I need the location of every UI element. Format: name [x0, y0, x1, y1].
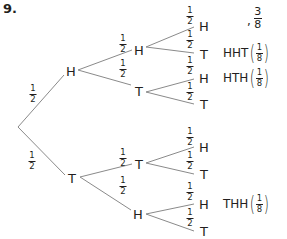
prob-th-h: 12: [187, 182, 194, 202]
leaf-thh: H: [199, 198, 209, 211]
prob-tt-h: 12: [187, 127, 194, 147]
outcome-prob: 18: [256, 68, 263, 88]
leaf-hht: T: [200, 48, 208, 61]
node-ht: T: [135, 85, 143, 98]
right-paren: ): [264, 42, 269, 64]
outcome-prob: 18: [256, 194, 263, 214]
prob-t-t: 12: [120, 148, 127, 168]
prob-tt-t: 12: [187, 151, 194, 171]
leaf-hth: H: [199, 72, 209, 85]
outcome-thh: THH ( 18 ): [223, 193, 271, 215]
node-tt: T: [135, 158, 143, 171]
leaf-htt: T: [200, 98, 208, 111]
right-paren: ): [264, 67, 269, 89]
node-th: H: [133, 208, 143, 221]
outcome-hht: HHT ( 18 ): [223, 42, 271, 64]
leaf-tth: H: [199, 141, 209, 154]
prob-ht-h: 12: [187, 56, 194, 76]
outcome-hth: HTH ( 18 ): [223, 67, 271, 89]
left-paren: (: [250, 193, 255, 215]
prob-t-h: 12: [120, 176, 127, 196]
left-paren: (: [250, 67, 255, 89]
answer-fraction: 38: [254, 6, 262, 30]
prob-h-t: 12: [120, 59, 127, 79]
node-h: H: [66, 65, 76, 78]
prob-th-t: 12: [187, 208, 194, 228]
node-hh: H: [134, 44, 144, 57]
right-paren: ): [264, 193, 269, 215]
leaf-ttt: T: [200, 168, 208, 181]
prob-root-h: 12: [30, 84, 37, 104]
branch-root-h: [18, 75, 64, 127]
prob-ht-t: 12: [187, 82, 194, 102]
left-paren: (: [250, 42, 255, 64]
leaf-hhh: H: [199, 20, 209, 33]
branch-root-t: [18, 127, 65, 175]
final-answer: , 38: [247, 6, 262, 30]
prob-hh-h: 12: [187, 6, 194, 26]
prob-root-t: 12: [29, 151, 36, 171]
node-t: T: [68, 172, 76, 185]
outcome-prob: 18: [256, 43, 263, 63]
prob-hh-t: 12: [187, 30, 194, 50]
prob-h-h: 12: [120, 34, 127, 54]
leaf-tht: T: [200, 225, 208, 238]
